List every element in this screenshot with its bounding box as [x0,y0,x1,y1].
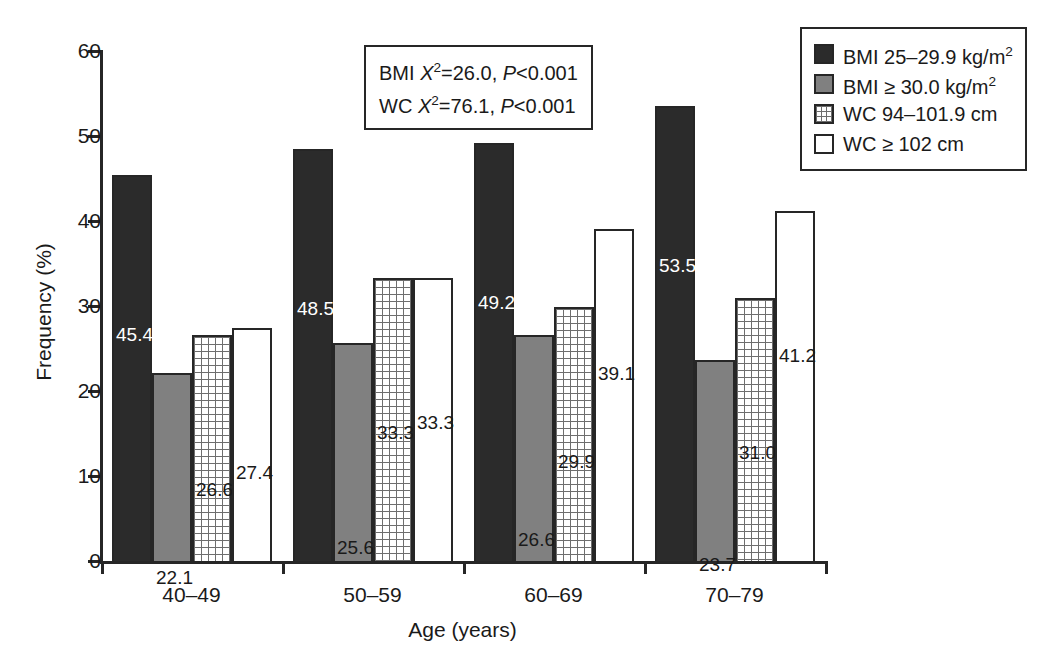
bar [695,360,735,563]
x-tick-mark [644,561,647,574]
bar [112,175,152,563]
legend-label: WC ≥ 102 cm [843,134,964,154]
y-tick-30: 30 [0,305,101,308]
x-tick-mark [101,561,104,574]
y-tick-label: 60 [55,40,101,61]
y-tick-label: 40 [55,210,101,231]
bar-value-label: 26.6 [196,480,233,499]
stats-wc-p-value: <0.001 [514,94,576,116]
legend-swatch-icon [814,44,834,64]
legend: BMI 25–29.9 kg/m2BMI ≥ 30.0 kg/m2WC 94–1… [800,27,1027,171]
x-category-label: 40–49 [122,583,262,607]
legend-label: WC 94–101.9 cm [843,104,998,124]
y-tick-label: 20 [55,380,101,401]
bar [554,307,594,563]
legend-item[interactable]: BMI ≥ 30.0 kg/m2 [814,69,1013,99]
legend-swatch-icon [814,74,834,94]
legend-item[interactable]: WC 94–101.9 cm [814,99,1013,129]
stats-wc-p-symbol: P [501,94,514,116]
y-tick-label: 50 [55,125,101,146]
bar-value-label: 25.6 [337,538,374,557]
stats-wc-value: =76.1, [439,94,501,116]
y-tick-label: 0 [55,550,101,571]
y-tick-50: 50 [0,135,101,138]
bar-value-label: 53.5 [659,256,696,275]
bar-value-label: 29.9 [558,452,595,471]
y-tick-60: 60 [0,50,101,53]
bar [735,298,775,564]
stats-bmi-superscript: 2 [433,60,441,75]
stats-wc-superscript: 2 [431,93,439,108]
stats-bmi-p-symbol: P [503,62,516,84]
stats-wc-symbol: X [418,94,431,116]
legend-label: BMI 25–29.9 kg/m2 [843,42,1013,67]
x-category-label: 50–59 [303,583,443,607]
bar [293,149,333,563]
bar-value-label: 33.3 [377,423,414,442]
bar [594,229,634,563]
bar-chart: Frequency (%) 0102030405060 45.448.549.2… [0,0,1055,657]
legend-label: BMI ≥ 30.0 kg/m2 [843,72,996,97]
bar-value-label: 49.2 [478,293,515,312]
stats-bmi-p-value: <0.001 [516,62,578,84]
legend-swatch-icon [814,134,834,154]
bar [373,278,413,563]
bar-value-label: 41.2 [779,346,816,365]
bar [333,343,373,563]
x-category-label: 70–79 [665,583,805,607]
bar-value-label: 23.7 [699,555,736,574]
stats-bmi-prefix: BMI [379,62,420,84]
stats-bmi-value: =26.0, [441,62,503,84]
x-tick-mark [825,561,828,574]
y-tick-0: 0 [0,560,101,563]
legend-swatch-icon [814,104,834,124]
y-axis-title: Frequency (%) [32,162,56,462]
x-tick-mark [463,561,466,574]
x-axis-title: Age (years) [100,618,825,642]
legend-item[interactable]: WC ≥ 102 cm [814,129,1013,159]
legend-item[interactable]: BMI 25–29.9 kg/m2 [814,39,1013,69]
bar [192,335,232,563]
legend-label-superscript: 2 [988,74,996,89]
bar [474,143,514,563]
bar-value-label: 31.0 [739,443,776,462]
legend-label-superscript: 2 [1005,44,1013,59]
bar-value-label: 27.4 [236,463,273,482]
y-tick-10: 10 [0,475,101,478]
y-tick-20: 20 [0,390,101,393]
bar-value-label: 48.5 [297,299,334,318]
bar-value-label: 26.6 [518,530,555,549]
bar [232,328,272,563]
x-category-label: 60–69 [484,583,624,607]
bar-value-label: 33.3 [417,413,454,432]
y-tick-40: 40 [0,220,101,223]
stats-line-wc: WC X2=76.1, P<0.001 [379,87,578,120]
stats-wc-prefix: WC [379,94,418,116]
bar-value-label: 45.4 [116,325,153,344]
bar [152,373,192,563]
bar [655,106,695,563]
stats-bmi-symbol: X [420,62,433,84]
bar-value-label: 39.1 [598,364,635,383]
bar [775,211,815,563]
x-tick-mark [282,561,285,574]
y-tick-label: 30 [55,295,101,316]
stats-line-bmi: BMI X2=26.0, P<0.001 [379,54,578,87]
y-tick-label: 10 [55,465,101,486]
stats-annotation-box: BMI X2=26.0, P<0.001 WC X2=76.1, P<0.001 [364,45,593,130]
